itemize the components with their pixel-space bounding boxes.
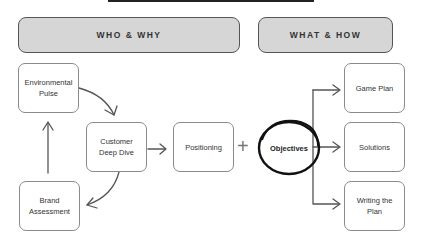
- node-solutions: Solutions: [344, 122, 405, 172]
- node-label: Objectives: [270, 144, 308, 153]
- node-customer-deep-dive: Customer Deep Dive: [86, 122, 147, 172]
- node-label: Positioning: [185, 142, 222, 153]
- node-game-plan: Game Plan: [344, 63, 405, 113]
- node-writing-the-plan: Writing the Plan: [344, 181, 405, 231]
- plus-sign: +: [237, 136, 249, 156]
- node-label: Environmental Pulse: [19, 77, 78, 99]
- node-positioning: Positioning: [173, 122, 234, 172]
- node-label: Game Plan: [356, 83, 394, 94]
- node-brand-assessment: Brand Assessment: [19, 181, 80, 231]
- node-label: Brand Assessment: [26, 195, 74, 217]
- node-label: Writing the Plan: [357, 195, 393, 217]
- node-label: Solutions: [359, 142, 390, 153]
- node-objectives: Objectives: [258, 121, 320, 175]
- node-environmental-pulse: Environmental Pulse: [18, 63, 79, 113]
- node-label: Customer Deep Dive: [96, 136, 138, 158]
